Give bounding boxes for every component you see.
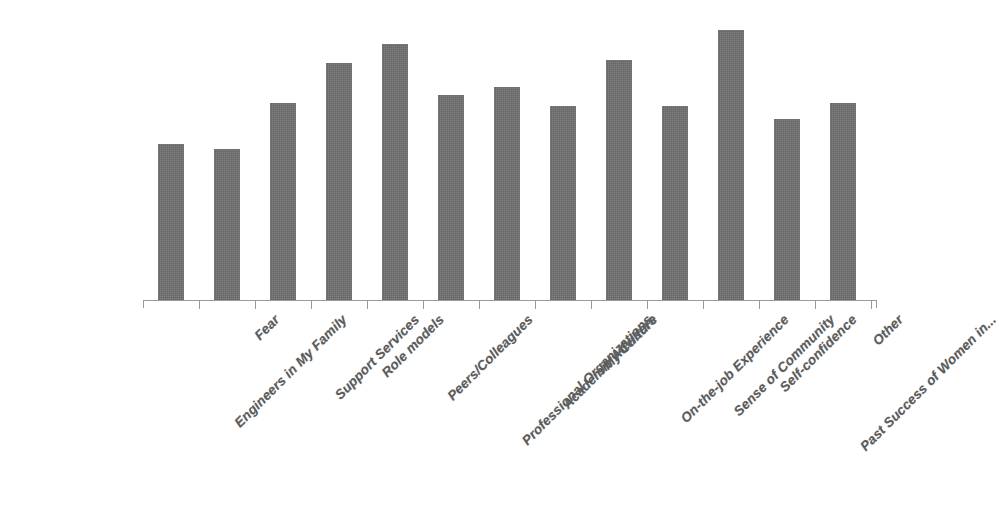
bar-slot <box>143 20 199 301</box>
bar-slot <box>199 20 255 301</box>
x-axis-tick <box>311 301 312 309</box>
bar[interactable] <box>662 106 688 301</box>
bar[interactable] <box>158 144 184 301</box>
bar[interactable] <box>718 30 744 301</box>
bar-slot <box>311 20 367 301</box>
bar-slot <box>647 20 703 301</box>
bar-slot <box>815 20 871 301</box>
bar-slot <box>591 20 647 301</box>
bar[interactable] <box>382 44 408 301</box>
x-axis-tick <box>759 301 760 309</box>
bar-slot <box>255 20 311 301</box>
bar[interactable] <box>214 149 240 301</box>
category-label: Engineers in My Family <box>232 312 350 430</box>
bar[interactable] <box>774 119 800 301</box>
x-axis-tick <box>367 301 368 309</box>
bar-slot <box>423 20 479 301</box>
bar[interactable] <box>326 63 352 301</box>
x-axis-tick <box>815 301 816 309</box>
x-axis-tick <box>703 301 704 309</box>
category-label: Peers/Colleagues <box>445 312 536 403</box>
bar[interactable] <box>830 103 856 301</box>
x-axis-tick <box>871 301 872 309</box>
x-axis-category-labels: Engineers in My FamilyFearSupport Servic… <box>143 312 877 517</box>
bar-slot <box>759 20 815 301</box>
bar-slot <box>479 20 535 301</box>
bar[interactable] <box>606 60 632 301</box>
bar[interactable] <box>494 87 520 301</box>
x-axis-tick <box>199 301 200 309</box>
x-axis-tick-marks <box>143 301 877 310</box>
x-axis-tick <box>647 301 648 309</box>
x-axis-tick <box>423 301 424 309</box>
plot-area <box>143 20 877 301</box>
bar[interactable] <box>438 95 464 301</box>
bar[interactable] <box>550 106 576 301</box>
x-axis-tick <box>535 301 536 309</box>
category-label: My Culture <box>600 312 661 373</box>
bar-slot <box>703 20 759 301</box>
bar-slot <box>367 20 423 301</box>
bar[interactable] <box>270 103 296 301</box>
x-axis-tick <box>255 301 256 309</box>
x-axis-tick <box>591 301 592 309</box>
category-label: Other <box>870 312 906 348</box>
x-axis-tick <box>479 301 480 309</box>
category-label: Fear <box>252 312 283 343</box>
bar-slot <box>535 20 591 301</box>
